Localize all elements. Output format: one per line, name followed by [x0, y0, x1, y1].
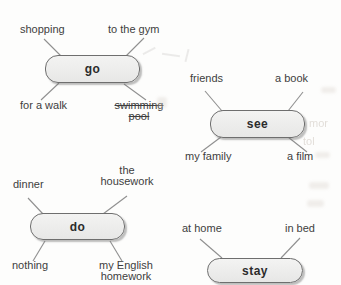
connector-line [28, 198, 43, 214]
bleed-through-smudge [321, 87, 336, 93]
verb-label-do: do [70, 220, 86, 234]
word-map-page: go shopping to the gym for a walk swimmi… [0, 0, 341, 285]
connector-line [33, 241, 45, 261]
word-the-housework: the housework [98, 165, 156, 187]
word-for-a-walk: for a walk [20, 100, 67, 111]
word-a-book: a book [275, 73, 308, 84]
verb-pill-see: see [210, 110, 305, 138]
bleed-through-text: mor [309, 117, 328, 129]
verb-label-see: see [247, 117, 269, 131]
word-nothing: nothing [12, 260, 48, 271]
word-dinner: dinner [13, 179, 44, 190]
word-in-bed: in bed [285, 223, 315, 234]
connector-line [288, 92, 303, 111]
bleed-through-smudge [309, 182, 329, 189]
word-friends: friends [190, 73, 223, 84]
connector-line [126, 38, 144, 56]
word-at-home: at home [182, 223, 222, 234]
verb-label-stay: stay [242, 264, 268, 278]
bleed-through-smudge [157, 97, 167, 108]
connector-line [124, 84, 146, 100]
verb-label-go: go [85, 62, 101, 76]
connector-line [41, 83, 59, 100]
bleed-through-smudge [315, 152, 330, 158]
connector-line [103, 196, 127, 214]
connector-line [110, 241, 122, 261]
word-my-english-homework: my English homework [95, 260, 157, 282]
bleed-through-smudge [307, 200, 324, 207]
connector-lines [0, 0, 341, 285]
verb-pill-stay: stay [207, 258, 303, 283]
word-my-family: my family [185, 151, 231, 162]
verb-pill-do: do [30, 213, 125, 240]
verb-pill-go: go [45, 55, 140, 83]
connector-line [205, 91, 222, 111]
word-shopping: shopping [20, 24, 65, 35]
word-to-the-gym: to the gym [108, 24, 159, 35]
word-a-film: a film [287, 151, 313, 162]
bleed-through-text: tol [303, 135, 315, 147]
connector-line [44, 39, 61, 56]
connector-line [281, 238, 300, 258]
connector-line [200, 239, 222, 258]
